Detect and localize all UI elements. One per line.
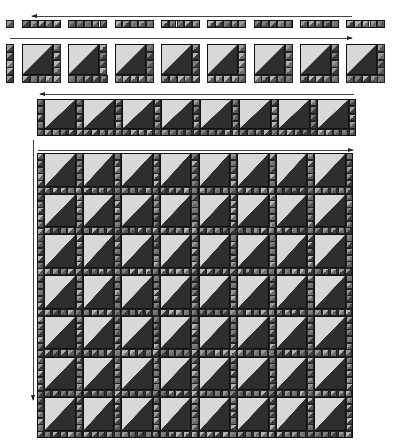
hst-unit xyxy=(38,75,46,83)
strip-frame xyxy=(346,20,385,28)
strip-frame xyxy=(22,20,61,28)
arrow-line xyxy=(10,38,352,39)
arrow-line xyxy=(40,94,354,95)
block-triangle xyxy=(207,44,238,75)
hst-unit xyxy=(84,75,92,83)
hst-unit xyxy=(115,75,123,83)
block-triangle xyxy=(346,44,377,75)
hst-unit xyxy=(53,75,61,83)
hst-unit xyxy=(315,75,323,83)
hst-unit xyxy=(269,75,277,83)
quilt-frame xyxy=(37,153,353,438)
hst-unit xyxy=(169,75,177,83)
hst-unit xyxy=(261,75,269,83)
block-triangle xyxy=(22,44,53,75)
hst-unit xyxy=(100,75,108,83)
strip-frame xyxy=(254,20,293,28)
block-triangle xyxy=(300,44,331,75)
arrow-head-left-icon xyxy=(31,14,37,18)
hst-unit xyxy=(354,75,362,83)
hst-unit xyxy=(238,75,246,83)
arrow-line-vertical xyxy=(33,140,34,400)
block-triangle xyxy=(68,44,99,75)
hst-unit xyxy=(177,75,185,83)
hst-unit xyxy=(192,75,200,83)
hst-unit xyxy=(223,75,231,83)
sash-column-frame xyxy=(6,44,14,83)
hst-unit xyxy=(346,75,354,83)
hst-unit xyxy=(231,75,239,83)
hst-unit xyxy=(207,75,215,83)
hst-unit xyxy=(370,75,378,83)
hst-unit xyxy=(161,75,169,83)
strip-frame xyxy=(161,20,200,28)
arrow-head-left-icon xyxy=(39,92,45,96)
block-triangle xyxy=(254,44,285,75)
block-triangle xyxy=(161,44,192,75)
arrow-head-right-icon xyxy=(347,36,353,40)
arrow-line xyxy=(38,150,353,151)
hst-unit xyxy=(362,75,370,83)
hst-unit xyxy=(331,75,339,83)
strip-frame xyxy=(115,20,154,28)
hst-unit xyxy=(377,75,385,83)
strip-frame xyxy=(207,20,246,28)
hst-unit xyxy=(22,75,30,83)
hst-unit xyxy=(45,75,53,83)
hst-unit xyxy=(184,75,192,83)
hst-unit xyxy=(300,75,308,83)
hst-unit xyxy=(68,75,76,83)
hst-unit xyxy=(254,75,262,83)
arrow-line xyxy=(32,16,352,17)
hst-unit xyxy=(308,75,316,83)
hst-unit xyxy=(215,75,223,83)
arrow-head-right-icon xyxy=(348,148,354,152)
hst-unit xyxy=(285,75,293,83)
hst-unit xyxy=(130,75,138,83)
hst-unit xyxy=(30,75,38,83)
block-triangle xyxy=(115,44,146,75)
quilt-diagram xyxy=(0,0,394,445)
hst-unit xyxy=(277,75,285,83)
strip-frame xyxy=(300,20,339,28)
hst-unit xyxy=(76,75,84,83)
hst-unit xyxy=(92,75,100,83)
strip-frame xyxy=(68,20,107,28)
row-frame xyxy=(37,99,356,136)
arrow-head-down-icon xyxy=(31,395,35,401)
hst-unit xyxy=(6,20,14,28)
hst-unit xyxy=(146,75,154,83)
hst-unit xyxy=(122,75,130,83)
hst-unit xyxy=(323,75,331,83)
hst-unit xyxy=(138,75,146,83)
